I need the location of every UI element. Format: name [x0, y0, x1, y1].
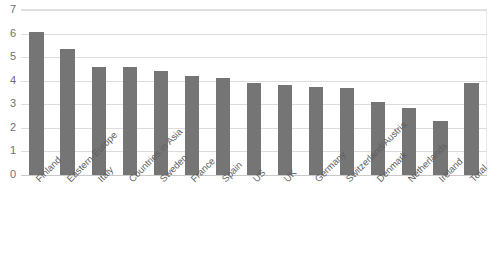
y-tick-label: 0	[0, 169, 16, 180]
bar[interactable]	[247, 83, 261, 175]
bar-slot	[207, 10, 238, 175]
y-tick-label: 5	[0, 51, 16, 62]
bar[interactable]	[216, 78, 230, 175]
y-tick-label: 6	[0, 28, 16, 39]
bar[interactable]	[309, 87, 323, 175]
bar[interactable]	[278, 85, 292, 175]
bar-chart: 76543210 FinlandEastern-EuropeItalyCount…	[0, 0, 499, 259]
x-axis-tick-labels: FinlandEastern-EuropeItalyCountries in A…	[21, 177, 487, 259]
bar-slot	[176, 10, 207, 175]
y-tick-label: 7	[0, 4, 16, 15]
y-tick-label: 4	[0, 75, 16, 86]
bar-slot	[114, 10, 145, 175]
y-tick-label: 1	[0, 145, 16, 156]
bar[interactable]	[123, 67, 137, 175]
bar-slot	[270, 10, 301, 175]
bar-slot	[21, 10, 52, 175]
bar-slot	[52, 10, 83, 175]
bar[interactable]	[402, 108, 416, 175]
bar-slot	[301, 10, 332, 175]
y-tick-label: 3	[0, 98, 16, 109]
y-tick-label: 2	[0, 122, 16, 133]
bar[interactable]	[60, 49, 74, 175]
bar-slot	[238, 10, 269, 175]
bar[interactable]	[464, 83, 478, 175]
bar-slot	[456, 10, 487, 175]
bar-slot	[332, 10, 363, 175]
bar[interactable]	[29, 32, 43, 175]
